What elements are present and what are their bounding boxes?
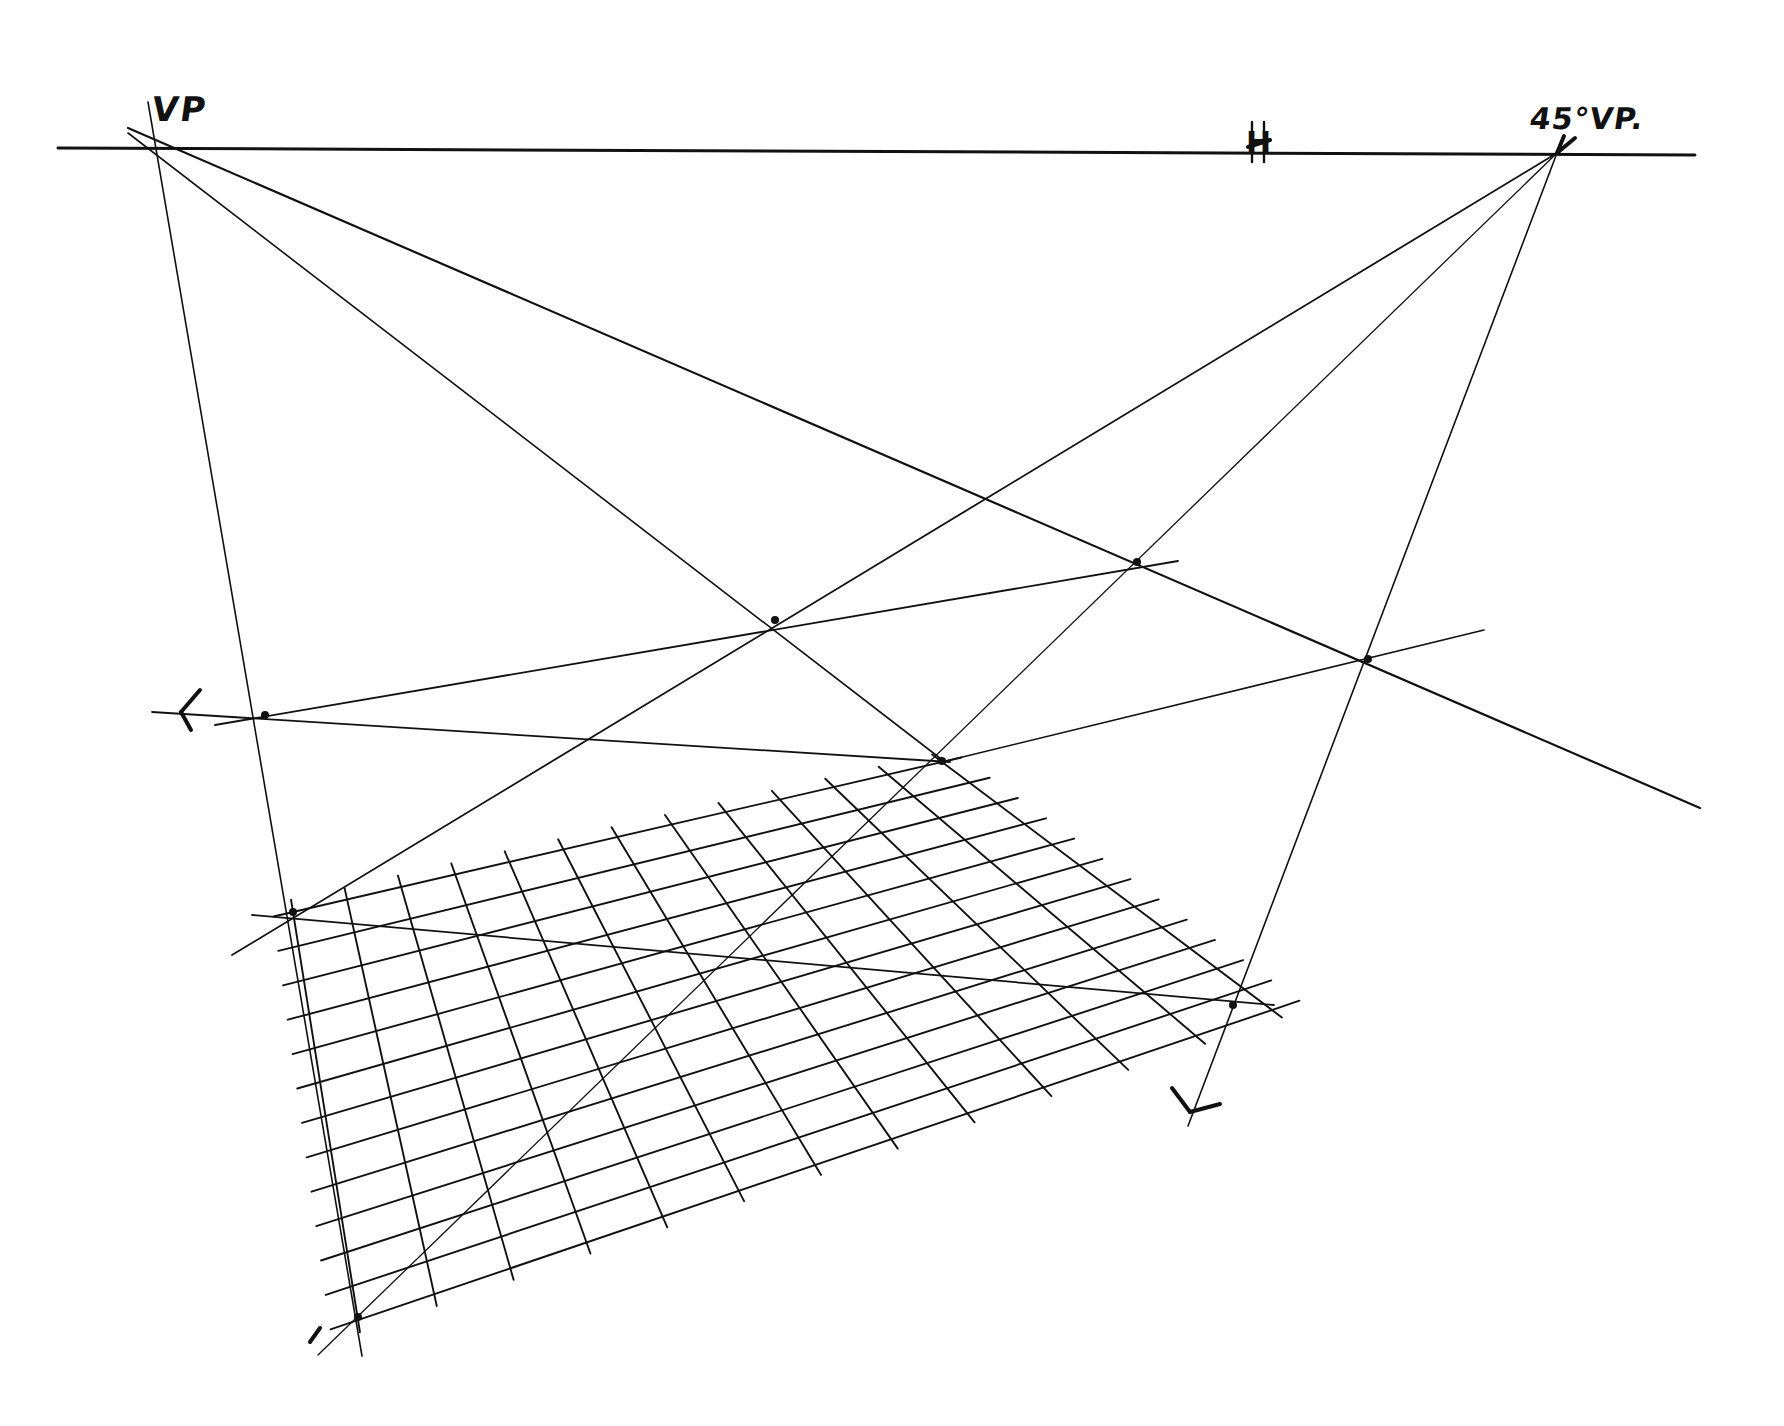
left-arrow-mark bbox=[181, 690, 200, 712]
perspective-drawing bbox=[0, 0, 1784, 1426]
grid-bottom-left-corner bbox=[354, 1313, 362, 1321]
right-intersection-node bbox=[1364, 655, 1372, 663]
horizon-line bbox=[58, 148, 1695, 155]
floor-grid bbox=[274, 755, 1300, 1333]
bottom-left-arrow-mark bbox=[310, 1328, 320, 1342]
vp45-diagonal-through-grid bbox=[318, 153, 1557, 1355]
grid-diagonal-transversal bbox=[252, 915, 1274, 1005]
grid-column-line bbox=[291, 900, 360, 1332]
upper-right-crossing bbox=[1133, 558, 1141, 566]
grid-front-right-corner bbox=[1229, 1001, 1237, 1009]
vanishing-point-label: VP bbox=[150, 92, 210, 126]
horizon-mark-label: H bbox=[1246, 128, 1271, 158]
upper-center-crossing bbox=[771, 616, 779, 624]
grid-column-line bbox=[772, 791, 1052, 1096]
grid-column-line bbox=[879, 767, 1205, 1044]
vp45-right-edge bbox=[1188, 153, 1557, 1126]
bottom-right-arrow-mark bbox=[1172, 1088, 1190, 1112]
left-edge-transversal-node bbox=[261, 711, 269, 719]
vp-vertical-left-edge bbox=[148, 102, 362, 1356]
arrow-marks bbox=[181, 136, 1575, 1342]
construction-lines bbox=[128, 102, 1700, 1356]
upper-transversal bbox=[215, 561, 1178, 725]
grid-column-line bbox=[932, 755, 1282, 1018]
vp-to-far-right bbox=[128, 128, 1700, 808]
vp45-label: 45°VP. bbox=[1528, 104, 1646, 134]
horizon-line bbox=[58, 148, 1695, 155]
center-vanishing-node bbox=[938, 757, 946, 765]
vp45-to-lower-left bbox=[232, 153, 1557, 955]
vp-to-center-point bbox=[128, 133, 945, 762]
grid-front-left-corner bbox=[289, 908, 297, 916]
center-to-right-transversal bbox=[942, 630, 1484, 762]
left-to-center-transversal bbox=[152, 712, 950, 762]
